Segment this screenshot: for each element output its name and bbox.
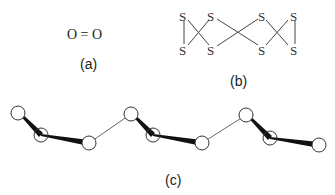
sulfur-atom: S: [179, 43, 186, 58]
panel-b-label: (b): [230, 73, 247, 89]
panel-c-label: (c): [165, 172, 181, 188]
chain-node: [195, 136, 209, 150]
polymer-chain-bonds: [18, 112, 319, 148]
sulfur-atom: S: [290, 9, 297, 24]
chain-node: [124, 107, 138, 121]
sulfur-atom: S: [290, 43, 297, 58]
polymer-chain-nodes: [11, 106, 326, 152]
diagram-canvas: S S S S S S S S: [0, 0, 335, 195]
chain-node: [82, 136, 96, 150]
chain-node: [11, 106, 25, 120]
sulfur-atom: S: [258, 9, 265, 24]
sulfur-atom: S: [179, 9, 186, 24]
sulfur-atom: S: [207, 9, 214, 24]
sulfur-atom: S: [258, 43, 265, 58]
chain-node: [239, 108, 253, 122]
sulfur-atoms: S S S S S S S S: [179, 9, 297, 58]
sulfur-atom: S: [207, 43, 214, 58]
sulfur-ring-bonds: [184, 19, 295, 46]
chain-node: [312, 138, 326, 152]
